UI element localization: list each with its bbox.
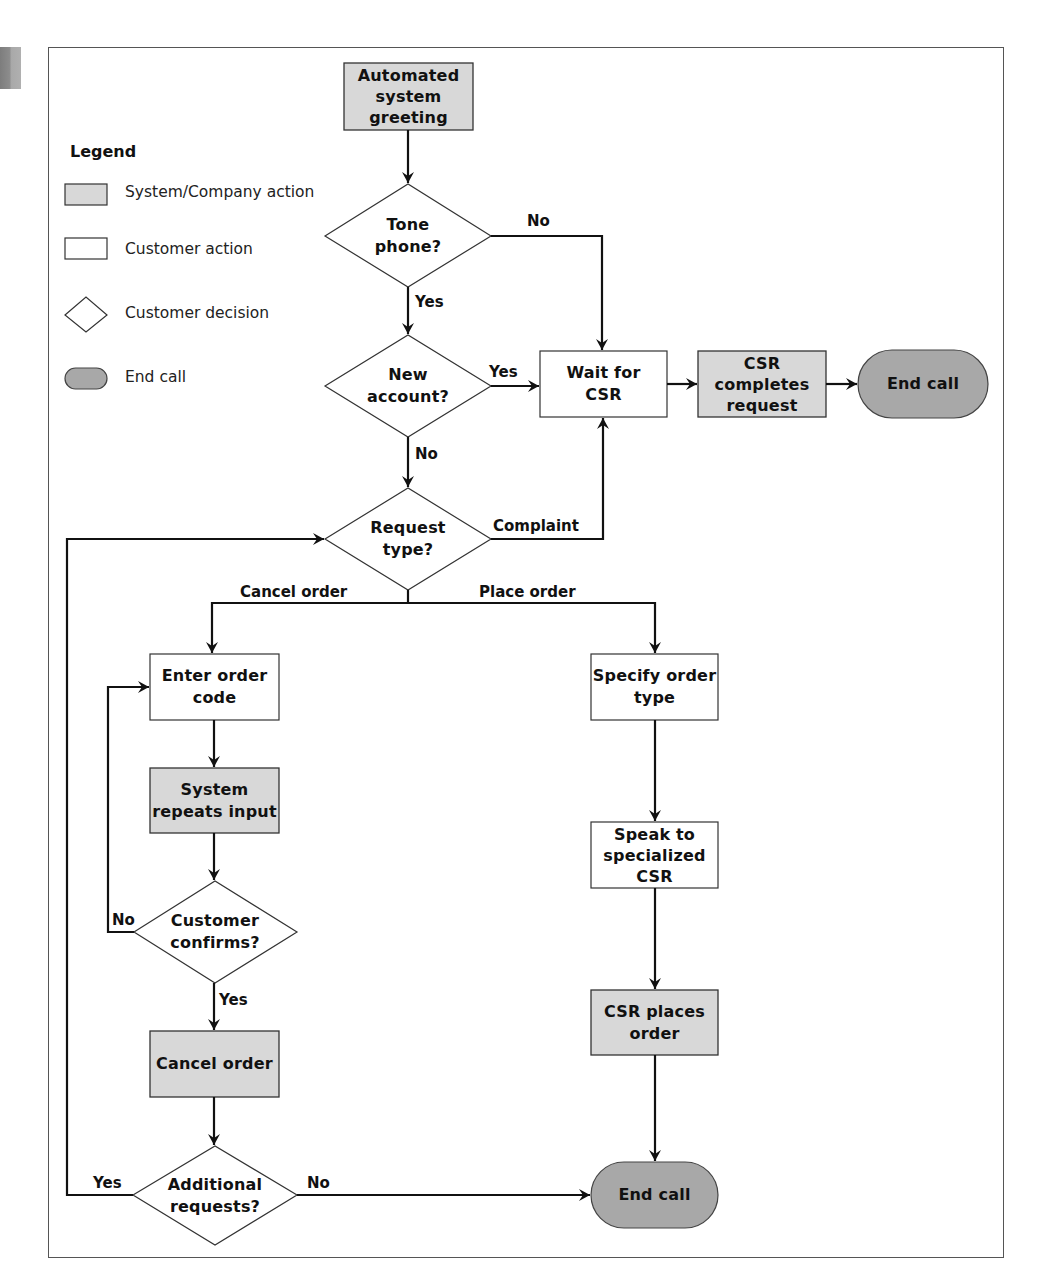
node-enter-order-code-label: Enter order code: [150, 654, 279, 720]
legend-decision-swatch: [65, 297, 107, 332]
legend-end-swatch: [65, 368, 107, 389]
node-end-call-bottom-label: End call: [591, 1162, 718, 1228]
edge-label-place-order: Place order: [479, 583, 576, 601]
edge-label-cancel-order: Cancel order: [240, 583, 347, 601]
edge-label-additional-yes: Yes: [93, 1174, 122, 1192]
legend-label-customer-action: Customer action: [125, 240, 253, 258]
edge-tone-no-to-wait: [491, 236, 602, 350]
node-greeting-label: Automated system greeting: [344, 63, 473, 130]
edge-label-complaint: Complaint: [493, 517, 579, 535]
node-wait-csr-label: Wait for CSR: [540, 351, 667, 417]
node-additional-requests-label: Additional requests?: [150, 1158, 280, 1234]
node-tone-phone-label: Tone phone?: [345, 198, 471, 274]
node-new-account-label: New account?: [345, 348, 471, 424]
node-request-type-label: Request type?: [345, 501, 471, 577]
legend-customer-swatch: [65, 238, 107, 259]
edge-label-tone-no: No: [527, 212, 550, 230]
edge-cancel-branch: [212, 603, 408, 653]
node-csr-completes-label: CSR completes request: [698, 351, 826, 417]
node-specify-order-type-label: Specify order type: [589, 654, 720, 720]
node-cancel-order-label: Cancel order: [150, 1031, 279, 1097]
edge-label-additional-no: No: [307, 1174, 330, 1192]
edge-confirm-no-loop: [108, 687, 149, 932]
node-csr-places-order-label: CSR places order: [591, 990, 718, 1055]
node-end-call-top-label: End call: [858, 350, 988, 418]
legend-label-system-action: System/Company action: [125, 183, 314, 201]
legend-title: Legend: [70, 142, 136, 161]
edge-label-new-no: No: [415, 445, 438, 463]
node-customer-confirms-label: Customer confirms?: [150, 894, 280, 970]
node-system-repeats-label: System repeats input: [146, 768, 283, 833]
node-speak-specialized-label: Speak to specialized CSR: [591, 822, 718, 888]
edge-label-new-yes: Yes: [489, 363, 518, 381]
legend-label-customer-decision: Customer decision: [125, 304, 269, 322]
edge-place-branch: [408, 603, 655, 653]
edge-label-tone-yes: Yes: [415, 293, 444, 311]
edge-label-confirm-yes: Yes: [219, 991, 248, 1009]
legend-system-swatch: [65, 184, 107, 205]
legend-label-end-call: End call: [125, 368, 186, 386]
edge-label-confirm-no: No: [112, 911, 135, 929]
